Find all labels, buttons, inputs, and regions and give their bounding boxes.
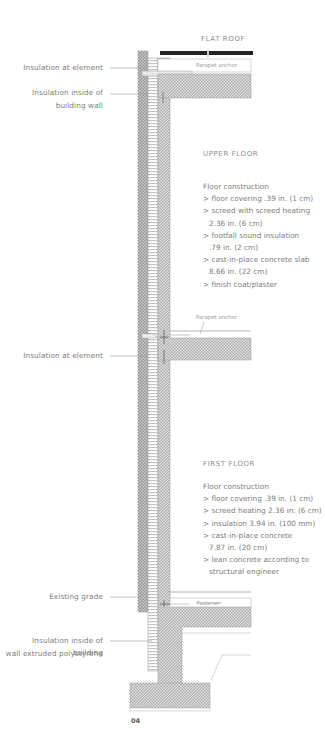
ground-slab-and-foundation-wall bbox=[158, 607, 251, 690]
label-insulation-inside-wall-2: building wall bbox=[56, 100, 103, 112]
wall-insulation bbox=[148, 58, 158, 671]
upper-floor-construction: Floor construction > floor covering .39 … bbox=[203, 181, 313, 291]
roof-membrane bbox=[160, 51, 207, 55]
figure-number: 04 bbox=[131, 717, 140, 725]
roof-slab bbox=[158, 74, 251, 98]
first-floor-construction: Floor construction > floor covering .39 … bbox=[203, 481, 322, 579]
label-insulation-inside-wall-1: Insulation inside of bbox=[32, 87, 103, 99]
outer-wall-leaf bbox=[138, 51, 148, 612]
fastener-label: Fastener bbox=[197, 600, 220, 606]
first-floor-heading: FIRST FLOOR bbox=[203, 460, 255, 468]
label-insulation-xps-2: wall extruded polystyrene bbox=[6, 648, 103, 660]
label-insulation-at-element-mid: Insulation at element bbox=[23, 350, 103, 362]
label-existing-grade: Existing grade bbox=[49, 591, 103, 603]
parapet-anchor-label-mid: Parapet anchor bbox=[196, 314, 237, 320]
label-insulation-at-element-top: Insulation at element bbox=[23, 62, 103, 74]
upper-floor-heading: UPPER FLOOR bbox=[203, 150, 258, 158]
upper-floor-slab bbox=[158, 338, 251, 360]
flat-roof-heading: FLAT ROOF bbox=[201, 35, 245, 43]
footing bbox=[130, 683, 210, 708]
parapet-anchor-label-top: Parapet anchor bbox=[196, 62, 237, 68]
